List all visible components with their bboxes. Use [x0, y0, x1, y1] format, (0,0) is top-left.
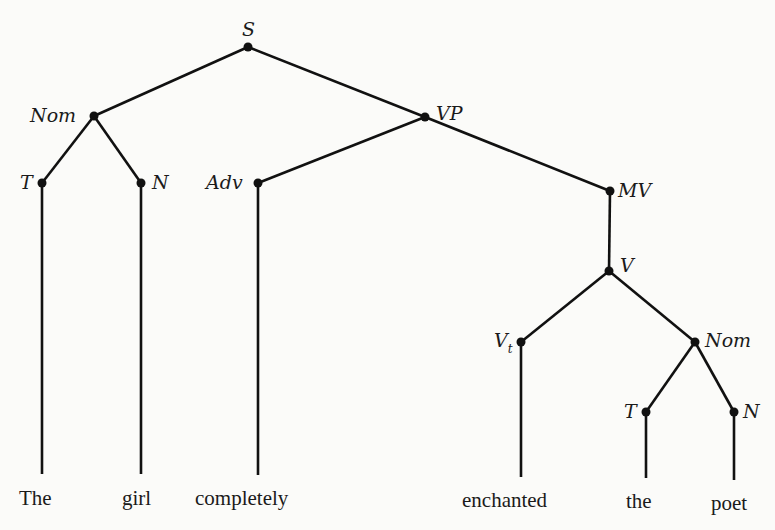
leaf-word-enchanted: enchanted: [462, 488, 548, 512]
edge-nom-t2: [646, 342, 695, 412]
node-label-s: S: [242, 18, 255, 40]
edge-vp-adv: [258, 117, 425, 183]
node-dot-v: [605, 267, 614, 276]
node-label-t2: T: [624, 400, 638, 422]
node-dot-nom2: [691, 338, 700, 347]
edge-mv-v: [609, 191, 610, 271]
node-label-adv: Adv: [204, 171, 243, 193]
node-label-vp: VP: [436, 102, 464, 124]
node-label-vt: Vt: [494, 329, 513, 356]
node-dot-mv: [606, 187, 615, 196]
edge-v-nom: [609, 271, 695, 342]
node-label-v: V: [620, 254, 636, 276]
node-dot-n2: [730, 408, 739, 417]
node-labels: S Nom VP T N Adv MV V Vt Nom T N: [20, 18, 761, 422]
node-dots: [38, 43, 739, 417]
node-label-n2: N: [742, 400, 761, 422]
leaf-word-the: The: [19, 486, 52, 510]
edge-v-vt: [521, 271, 609, 342]
node-label-n: N: [151, 171, 170, 193]
edge-nom-t: [42, 116, 94, 183]
edge-vp-mv: [425, 117, 610, 191]
leaf-words: The girl completely enchanted the poet: [19, 486, 747, 515]
syntax-tree: S Nom VP T N Adv MV V Vt Nom T N The gir…: [0, 0, 775, 530]
node-label-t: T: [20, 171, 34, 193]
edge-s-nom: [94, 47, 248, 116]
node-dot-n: [137, 179, 146, 188]
leaf-word-poet: poet: [711, 491, 747, 515]
node-dot-t2: [642, 408, 651, 417]
leaf-word-completely: completely: [195, 486, 289, 510]
node-dot-adv: [254, 179, 263, 188]
leaf-word-the-2: the: [626, 489, 652, 513]
node-label-mv: MV: [617, 179, 653, 201]
node-dot-vt: [517, 338, 526, 347]
node-dot-s: [244, 43, 253, 52]
edge-nom-n: [94, 116, 141, 183]
node-dot-vp: [421, 113, 430, 122]
node-label-nom: Nom: [29, 104, 76, 126]
node-label-nom2: Nom: [704, 329, 751, 351]
node-dot-nom: [90, 112, 99, 121]
edge-s-vp: [248, 47, 425, 117]
leaf-word-girl: girl: [122, 486, 151, 510]
edge-nom-n2: [695, 342, 734, 412]
node-dot-t: [38, 179, 47, 188]
